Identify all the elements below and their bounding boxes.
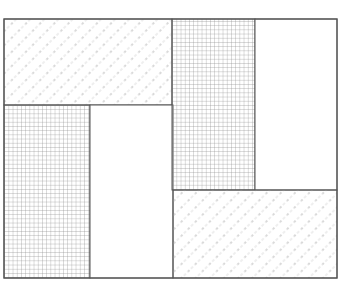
- region-d-grid: [172, 19, 255, 190]
- region-a-hatch: [4, 19, 172, 105]
- tiling-diagram: [0, 0, 344, 284]
- region-b-grid: [4, 105, 90, 278]
- region-f-hatch: [173, 190, 337, 278]
- diagram-canvas: [0, 0, 344, 284]
- region-c-blank: [90, 105, 173, 278]
- regions-layer: [4, 19, 337, 278]
- region-e-blank: [255, 19, 337, 190]
